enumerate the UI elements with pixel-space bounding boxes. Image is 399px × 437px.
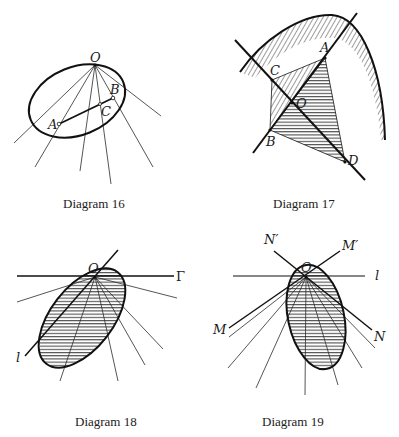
label-m-prime: M′	[341, 238, 358, 253]
label-a: A	[47, 117, 57, 132]
label-o: O	[301, 260, 312, 275]
label-o: O	[90, 50, 101, 65]
label-a: A	[319, 40, 329, 55]
caption-19: Diagram 19	[262, 414, 324, 429]
caption-17: Diagram 17	[273, 196, 335, 211]
label-m: M	[212, 322, 227, 337]
point-d	[343, 160, 346, 163]
label-b: B	[265, 134, 276, 149]
caption-18: Diagram 18	[75, 414, 137, 429]
caption-16: Diagram 16	[63, 196, 125, 211]
point-o	[290, 101, 293, 104]
label-d: D	[347, 153, 359, 168]
label-l: l	[375, 268, 379, 283]
label-o: O	[296, 96, 307, 111]
point-a	[57, 122, 61, 126]
figure-canvas: O A B C Diagram 16 A B C D O Diagram 17	[0, 0, 399, 437]
label-o: O	[88, 261, 99, 276]
point-a	[323, 56, 326, 59]
diagram-19: O l N′ M′ M N Diagram 19	[212, 232, 386, 429]
point-o	[304, 275, 307, 278]
rays-16	[14, 65, 161, 184]
diagram-16: O A B C Diagram 16	[14, 50, 161, 211]
label-gamma: Γ	[176, 269, 185, 284]
label-b: B	[109, 82, 120, 97]
label-c: C	[101, 104, 111, 119]
point-b	[268, 128, 271, 131]
label-c: C	[270, 63, 280, 78]
label-n: N	[373, 329, 386, 344]
label-n-prime: N′	[263, 232, 278, 247]
point-c	[270, 78, 273, 81]
diagram-18: O Γ l Diagram 18	[16, 250, 185, 429]
convex-curve-16	[18, 51, 136, 152]
diagram-17: A B C D O Diagram 17	[235, 13, 385, 211]
label-l: l	[16, 350, 20, 365]
